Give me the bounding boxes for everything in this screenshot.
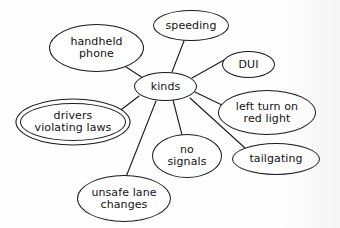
node-label-unsafe-lane-changes: unsafe lane changes [88, 187, 159, 210]
node-label-no-signals: no signals [165, 144, 210, 167]
node-left-turn-on-red-light[interactable]: left turn on red light [218, 90, 316, 135]
node-label-left-turn-on-red-light: left turn on red light [233, 101, 301, 124]
node-label-speeding: speeding [162, 20, 219, 32]
node-label-drivers-violating-laws: drivers violating laws [32, 110, 115, 133]
mind-map-diagram: kindshandheld phonespeedingDUIleft turn … [0, 0, 340, 228]
node-speeding[interactable]: speeding [153, 10, 229, 41]
node-layer: kindshandheld phonespeedingDUIleft turn … [0, 0, 340, 228]
node-label-tailgating: tailgating [246, 153, 305, 165]
node-label-kinds: kinds [148, 81, 184, 93]
node-unsafe-lane-changes[interactable]: unsafe lane changes [77, 175, 171, 222]
node-tailgating[interactable]: tailgating [232, 143, 320, 175]
node-no-signals[interactable]: no signals [152, 134, 222, 178]
node-kinds[interactable]: kinds [134, 72, 197, 101]
node-handheld-phone[interactable]: handheld phone [49, 24, 144, 72]
node-label-dui: DUI [235, 59, 261, 71]
node-drivers-violating-laws[interactable]: drivers violating laws [20, 103, 126, 141]
node-label-handheld-phone: handheld phone [67, 36, 125, 59]
node-dui[interactable]: DUI [222, 51, 275, 78]
